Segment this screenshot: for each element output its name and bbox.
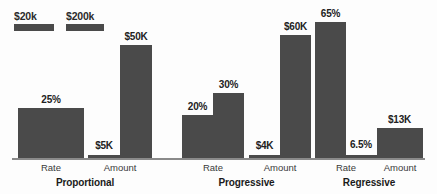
sub-label-proportional-rate: Rate bbox=[18, 162, 84, 173]
x-axis-baseline bbox=[12, 158, 425, 160]
value-label-progressive-amount-20k: $4K bbox=[247, 140, 282, 151]
bar-progressive-rate-20k[interactable] bbox=[182, 115, 213, 158]
sub-label-progressive-amount: Amount bbox=[249, 162, 311, 173]
sub-label-regressive-rate: Rate bbox=[315, 162, 377, 173]
sub-label-proportional-amount: Amount bbox=[88, 162, 152, 173]
bar-progressive-amount-200k[interactable] bbox=[280, 35, 311, 158]
group-label-proportional: Proportional bbox=[18, 177, 152, 188]
value-label-regressive-amount-200k: $13K bbox=[376, 114, 423, 125]
value-label-proportional-amount-20k: $5K bbox=[86, 140, 122, 151]
group-label-regressive: Regressive bbox=[315, 177, 423, 188]
plot-area: 25% $5K $50K Rate Amount Proportional 20… bbox=[0, 0, 437, 194]
value-label-regressive-rate-200k: 6.5% bbox=[341, 139, 381, 150]
value-label-proportional-amount-200k: $50K bbox=[118, 31, 154, 42]
bar-proportional-amount-200k[interactable] bbox=[120, 45, 152, 158]
value-label-regressive-rate-20k: 65% bbox=[313, 8, 348, 19]
bar-proportional-rate-20k[interactable] bbox=[18, 108, 51, 158]
bar-regressive-amount-200k[interactable] bbox=[400, 128, 423, 158]
value-label-progressive-rate-200k: 30% bbox=[211, 79, 246, 90]
sub-label-progressive-rate: Rate bbox=[182, 162, 244, 173]
group-label-progressive: Progressive bbox=[182, 177, 311, 188]
grouped-bar-chart: $20k $200k 25% $5K $50K Rate Amount Prop… bbox=[0, 0, 437, 194]
bar-progressive-rate-200k[interactable] bbox=[213, 93, 244, 158]
value-label-progressive-amount-200k: $60K bbox=[278, 21, 313, 32]
bar-proportional-rate-200k[interactable] bbox=[51, 108, 84, 158]
sub-label-regressive-amount: Amount bbox=[377, 162, 423, 173]
bar-regressive-amount-20k[interactable] bbox=[377, 128, 400, 158]
value-label-proportional-rate: 25% bbox=[18, 94, 84, 105]
value-label-progressive-rate-20k: 20% bbox=[180, 101, 215, 112]
bar-regressive-rate-20k[interactable] bbox=[315, 22, 346, 158]
